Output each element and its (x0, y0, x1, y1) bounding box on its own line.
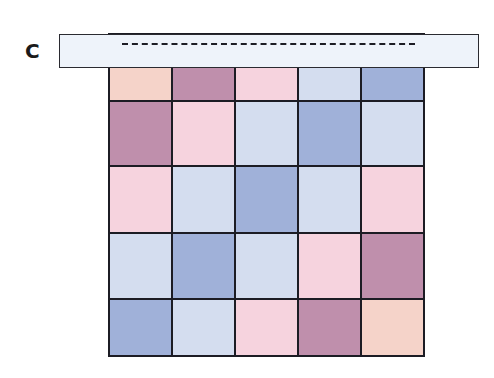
color-grid (108, 33, 425, 357)
grid-cell-r2-c5 (362, 102, 423, 165)
grid-cell-r5-c1 (110, 300, 171, 355)
grid-cell-r2-c1 (110, 102, 171, 165)
grid-cell-r2-c3 (236, 102, 297, 165)
grid-cell-r5-c4 (299, 300, 360, 355)
grid-cell-r5-c3 (236, 300, 297, 355)
grid-cell-r3-c5 (362, 167, 423, 232)
grid-cell-r3-c2 (173, 167, 234, 232)
panel-label: C (25, 40, 40, 62)
grid-cell-r5-c5 (362, 300, 423, 355)
grid-cell-r4-c4 (299, 234, 360, 298)
grid-cell-r2-c2 (173, 102, 234, 165)
grid-cell-r4-c1 (110, 234, 171, 298)
grid-cell-r4-c2 (173, 234, 234, 298)
dashed-line (122, 43, 415, 45)
grid-cell-r5-c2 (173, 300, 234, 355)
grid-cell-r2-c4 (299, 102, 360, 165)
overlay-bar (59, 34, 479, 68)
grid-cell-r3-c4 (299, 167, 360, 232)
grid-cell-r4-c3 (236, 234, 297, 298)
grid-cell-r4-c5 (362, 234, 423, 298)
grid-cell-r3-c3 (236, 167, 297, 232)
grid-cell-r3-c1 (110, 167, 171, 232)
